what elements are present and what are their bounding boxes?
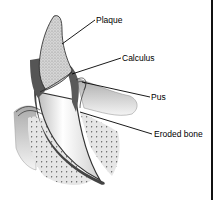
- label-plaque: Plaque: [96, 15, 122, 25]
- diagram-canvas: Plaque Calculus Pus Eroded bone: [0, 0, 219, 207]
- label-eroded-bone: Eroded bone: [154, 129, 203, 139]
- right-border-divider: [211, 0, 213, 200]
- leader-plaque: [62, 20, 95, 44]
- label-calculus: Calculus: [122, 53, 155, 63]
- label-pus: Pus: [151, 92, 166, 102]
- tooth-illustration: [0, 0, 219, 207]
- tooth-crown: [39, 16, 72, 90]
- leader-calculus: [72, 58, 121, 74]
